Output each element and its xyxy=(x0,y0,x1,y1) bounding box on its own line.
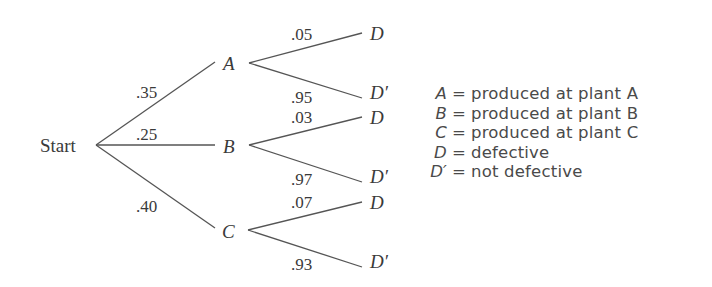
node-b-d: D xyxy=(369,107,384,128)
legend: A=produced at plant A B=produced at plan… xyxy=(425,84,638,182)
node-a-dprime: D′ xyxy=(369,82,389,103)
legend-text: produced at plant B xyxy=(471,104,638,123)
prob-c-dprime: .93 xyxy=(291,255,312,274)
legend-row-c: C=produced at plant C xyxy=(425,123,638,143)
node-a: A xyxy=(221,53,235,74)
legend-text: not defective xyxy=(471,162,583,181)
legend-key: D′ xyxy=(425,162,447,182)
legend-row-b: B=produced at plant B xyxy=(425,104,638,124)
legend-equals: = xyxy=(447,162,471,182)
prob-b-d: .03 xyxy=(291,108,312,127)
start-node: Start xyxy=(40,135,77,156)
legend-text: produced at plant C xyxy=(471,123,638,142)
node-b: B xyxy=(223,136,235,157)
prob-a-d: .05 xyxy=(291,25,312,44)
legend-row-dprime: D′=not defective xyxy=(425,162,638,182)
prob-b: .25 xyxy=(136,125,157,144)
legend-key: B xyxy=(425,104,447,124)
legend-key: D xyxy=(425,143,447,163)
legend-key: C xyxy=(425,123,447,143)
legend-equals: = xyxy=(447,84,471,104)
prob-a: .35 xyxy=(136,83,157,102)
prob-c: .40 xyxy=(136,197,157,216)
node-a-d: D xyxy=(369,23,384,44)
legend-equals: = xyxy=(447,143,471,163)
node-c: C xyxy=(222,221,235,242)
legend-row-d: D=defective xyxy=(425,143,638,163)
legend-text: defective xyxy=(471,143,549,162)
node-c-dprime: D′ xyxy=(369,251,389,272)
legend-row-a: A=produced at plant A xyxy=(425,84,638,104)
prob-a-dprime: .95 xyxy=(291,88,312,107)
legend-text: produced at plant A xyxy=(471,84,638,103)
node-c-d: D xyxy=(369,192,384,213)
legend-equals: = xyxy=(447,123,471,143)
prob-b-dprime: .97 xyxy=(291,170,313,189)
node-b-dprime: D′ xyxy=(369,166,389,187)
legend-key: A xyxy=(425,84,447,104)
legend-equals: = xyxy=(447,104,471,124)
prob-c-d: .07 xyxy=(291,193,313,212)
